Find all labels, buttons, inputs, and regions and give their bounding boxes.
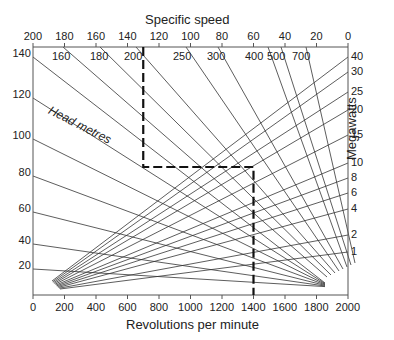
top-tick-label: 160 — [87, 31, 105, 42]
bottom-tick-label: 1800 — [304, 302, 328, 313]
specific-speed-line-label: 160 — [52, 51, 70, 62]
bottom-tick-label: 1000 — [178, 302, 202, 313]
megawatt-tick-label: 10 — [351, 157, 363, 168]
top-tick-label: 200 — [24, 31, 42, 42]
head-tick-label: 80 — [19, 167, 31, 178]
head-tick-label: 140 — [12, 48, 30, 59]
bottom-tick-label: 800 — [150, 302, 168, 313]
head-tick-label: 120 — [12, 89, 30, 100]
top-tick-label: 20 — [310, 31, 322, 42]
top-tick-label: 60 — [247, 31, 259, 42]
specific-speed-line-label: 300 — [207, 51, 225, 62]
bottom-tick-label: 0 — [30, 302, 36, 313]
specific-speed-line-label: 400 — [245, 51, 263, 62]
megawatt-tick-label: 40 — [351, 51, 363, 62]
bottom-axis-title: Revolutions per minute — [126, 318, 259, 331]
top-tick-label: 40 — [279, 31, 291, 42]
megawatt-tick-label: 25 — [351, 86, 363, 97]
top-tick-label: 0 — [345, 31, 351, 42]
bottom-tick-label: 200 — [55, 302, 73, 313]
megawatt-tick-label: 2 — [351, 229, 357, 240]
top-tick-label: 140 — [118, 31, 136, 42]
example-dashed-path — [143, 47, 253, 295]
top-axis-title: Specific speed — [145, 13, 230, 26]
megawatt-tick-label: 6 — [351, 187, 357, 198]
bottom-tick-label: 1400 — [241, 302, 265, 313]
bottom-tick-label: 600 — [118, 302, 136, 313]
megawatt-tick-label: 30 — [351, 66, 363, 77]
bottom-tick-label: 400 — [87, 302, 105, 313]
megawatt-tick-label: 20 — [351, 104, 363, 115]
head-tick-label: 100 — [12, 130, 30, 141]
bottom-tick-label: 2000 — [336, 302, 360, 313]
specific-speed-line-label: 200 — [124, 51, 142, 62]
bottom-tick-label: 1200 — [210, 302, 234, 313]
bottom-tick-label: 1600 — [273, 302, 297, 313]
head-tick-label: 20 — [19, 260, 31, 271]
megawatt-tick-label: 4 — [351, 203, 357, 214]
top-tick-label: 120 — [150, 31, 168, 42]
top-tick-label: 80 — [216, 31, 228, 42]
megawatt-tick-label: 8 — [351, 172, 357, 183]
specific-speed-line-label: 250 — [173, 51, 191, 62]
head-tick-label: 40 — [19, 235, 31, 246]
specific-speed-line-label: 500 — [267, 51, 285, 62]
top-tick-label: 100 — [181, 31, 199, 42]
specific-speed-line-label: 700 — [292, 51, 310, 62]
top-tick-label: 180 — [55, 31, 73, 42]
specific-speed-line-label: 180 — [90, 51, 108, 62]
megawatt-tick-label: 1 — [351, 246, 357, 257]
megawatt-tick-label: 15 — [351, 129, 363, 140]
head-tick-label: 60 — [19, 203, 31, 214]
